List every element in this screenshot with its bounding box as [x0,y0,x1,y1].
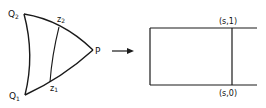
label-s-0: (s,0) [219,89,237,98]
label-z1: z1 [50,84,58,93]
strip-region [150,28,257,85]
curvilinear-triangle [24,14,93,95]
edge-q1-p [25,50,93,95]
edge-q2-q1 [24,14,30,95]
curve-z2-z1 [50,27,59,82]
label-q2: Q2 [8,9,19,20]
label-q1: Q1 [9,91,20,102]
mapping-arrow [112,48,134,54]
label-p: P [95,46,101,56]
label-s-1: (s,1) [219,17,237,26]
label-z2: z2 [57,15,65,24]
arrow-head-icon [127,48,134,54]
conformal-map-diagram: Q2 Q1 P z2 z1 (s,1) (s,0) [0,0,266,108]
